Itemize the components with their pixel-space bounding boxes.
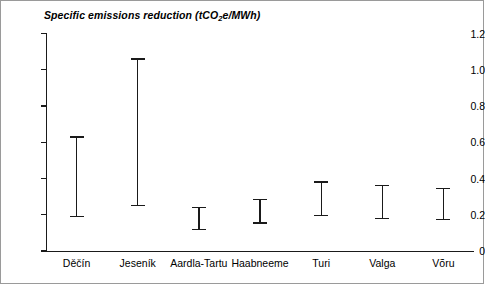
error-bar-stem — [76, 137, 77, 217]
y-tick-label: 0.2 — [451, 209, 485, 221]
x-tick-label: Jeseník — [120, 257, 156, 269]
y-tick-label: 0.8 — [451, 100, 485, 112]
error-bar-stem — [321, 182, 322, 216]
error-bar-stem — [443, 188, 444, 219]
x-tick-label: Turi — [312, 257, 330, 269]
error-bar-cap-upper — [131, 58, 145, 59]
y-tick-mark — [41, 250, 46, 251]
error-bar-cap-upper — [192, 207, 206, 208]
y-tick-mark — [41, 33, 46, 34]
y-tick-mark — [41, 69, 46, 70]
error-bar-cap-upper — [436, 188, 450, 189]
error-bar-stem — [259, 199, 260, 223]
error-bar-cap-lower — [70, 216, 84, 217]
error-bar-cap-upper — [70, 136, 84, 137]
y-tick-label: 1.2 — [451, 28, 485, 40]
error-bar-cap-upper — [375, 185, 389, 186]
y-tick-mark — [41, 142, 46, 143]
error-bar-cap-lower — [314, 215, 328, 216]
y-tick-label: 1.0 — [451, 64, 485, 76]
error-bar-stem — [137, 59, 138, 206]
error-bar-cap-lower — [436, 219, 450, 220]
error-bar-stem — [198, 208, 199, 230]
x-tick-label: Děčín — [63, 257, 90, 269]
y-tick-mark — [41, 214, 46, 215]
y-tick-label: 0.6 — [451, 136, 485, 148]
x-tick-label: Aardla-Tartu — [170, 257, 227, 269]
plot-area: 00.20.40.60.81.01.2 DěčínJeseníkAardla-T… — [1, 1, 485, 284]
error-bar-cap-upper — [314, 181, 328, 182]
y-tick-label: 0.4 — [451, 173, 485, 185]
error-bar-cap-lower — [253, 222, 267, 223]
error-bar-stem — [382, 186, 383, 219]
x-tick-label: Haabneeme — [231, 257, 288, 269]
y-tick-label: 0 — [451, 245, 485, 257]
error-bar-cap-lower — [192, 229, 206, 230]
x-tick-label: Võru — [432, 257, 454, 269]
error-bar-cap-lower — [131, 205, 145, 206]
error-bar-cap-upper — [253, 199, 267, 200]
y-axis-line — [46, 33, 47, 252]
x-axis-line — [46, 251, 474, 252]
y-tick-mark — [41, 178, 46, 179]
x-tick-label: Valga — [369, 257, 395, 269]
error-bar-cap-lower — [375, 218, 389, 219]
y-tick-mark — [41, 105, 46, 106]
